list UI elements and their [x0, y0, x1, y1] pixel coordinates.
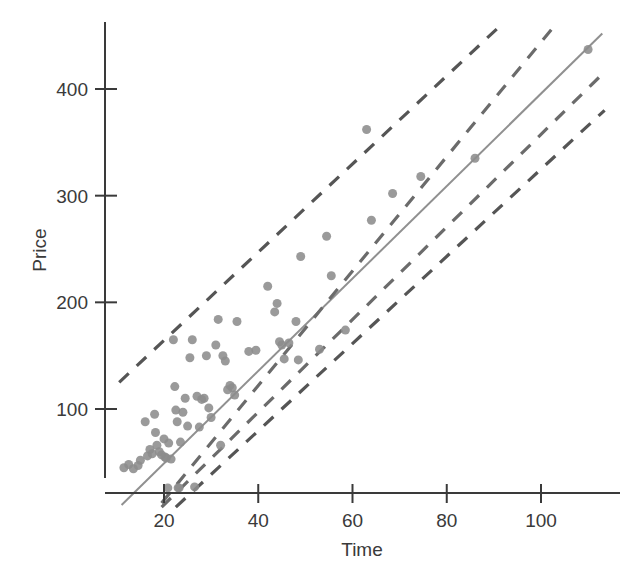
x-axis-title: Time	[341, 539, 383, 560]
y-axis-title: Price	[29, 228, 50, 271]
data-point	[327, 271, 336, 280]
y-axis: 100200300400	[56, 22, 117, 478]
data-point	[263, 282, 272, 291]
data-point	[471, 154, 480, 163]
data-point	[315, 345, 324, 354]
data-point	[141, 417, 150, 426]
data-point	[322, 232, 331, 241]
x-tick-label: 80	[436, 510, 457, 531]
chart-canvas: 100200300400 20406080100 Time Price	[0, 0, 633, 580]
data-point	[169, 335, 178, 344]
upper-confidence-band	[162, 25, 555, 503]
lower-prediction-band	[176, 110, 605, 507]
data-point	[211, 341, 220, 350]
data-point	[216, 441, 225, 450]
data-point	[195, 423, 204, 432]
data-point	[251, 346, 260, 355]
y-tick-label: 300	[56, 186, 88, 207]
x-tick-label: 20	[153, 510, 174, 531]
regression-line	[122, 34, 603, 506]
data-point	[214, 315, 223, 324]
upper-prediction-band	[119, 23, 503, 382]
data-point	[190, 482, 199, 491]
data-point	[296, 252, 305, 261]
x-tick-label: 60	[342, 510, 363, 531]
data-point	[362, 125, 371, 134]
data-point	[181, 394, 190, 403]
data-point	[150, 410, 159, 419]
data-point	[183, 422, 192, 431]
data-point	[164, 439, 173, 448]
data-point	[188, 335, 197, 344]
data-point	[273, 299, 282, 308]
data-point	[416, 172, 425, 181]
data-point	[221, 357, 230, 366]
data-point	[185, 353, 194, 362]
scatter-plot-figure: 100200300400 20406080100 Time Price	[0, 0, 633, 580]
y-tick-label: 400	[56, 79, 88, 100]
x-axis-ticks: 20406080100	[153, 484, 556, 531]
data-point	[167, 455, 176, 464]
data-point	[202, 351, 211, 360]
data-point	[176, 438, 185, 447]
y-axis-ticks: 100200300400	[56, 79, 117, 420]
data-point	[270, 307, 279, 316]
data-point	[292, 317, 301, 326]
data-point	[178, 408, 187, 417]
data-point	[230, 391, 239, 400]
data-point	[204, 403, 213, 412]
data-point	[294, 355, 303, 364]
data-point	[280, 354, 289, 363]
data-point	[584, 45, 593, 54]
x-tick-label: 100	[525, 510, 557, 531]
data-point	[151, 428, 160, 437]
data-point	[284, 338, 293, 347]
y-tick-label: 200	[56, 292, 88, 313]
fitted-lines-group	[119, 23, 604, 507]
data-point	[367, 216, 376, 225]
data-point	[233, 317, 242, 326]
data-point	[207, 413, 216, 422]
y-tick-label: 100	[56, 399, 88, 420]
data-point	[173, 417, 182, 426]
data-point	[200, 394, 209, 403]
data-point	[175, 483, 184, 492]
data-point	[388, 189, 397, 198]
x-tick-label: 40	[248, 510, 269, 531]
data-point	[170, 382, 179, 391]
data-point	[341, 326, 350, 335]
